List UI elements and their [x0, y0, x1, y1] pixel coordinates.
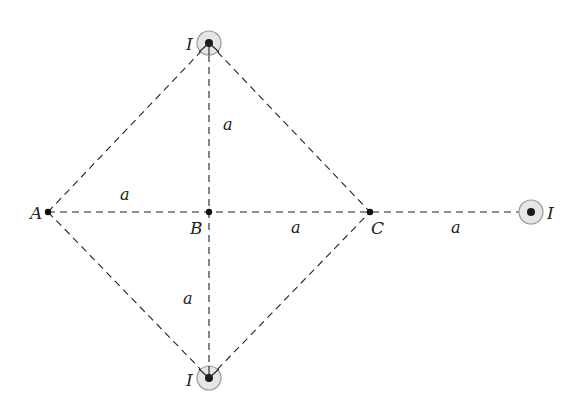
wire-bottom-label: I [185, 370, 193, 390]
distance-label-bottom-b: a [183, 289, 193, 308]
distance-label-c-right: a [451, 218, 461, 237]
point-dot-icon [45, 209, 51, 215]
distance-label-top-b: a [223, 115, 233, 134]
wire-right-label: I [546, 203, 554, 223]
wire-right: I [519, 200, 554, 224]
wire-top-label: I [185, 34, 193, 54]
line-top-c [209, 43, 370, 212]
distance-label-b-c: a [291, 218, 301, 237]
distance-label-a-b: a [120, 185, 130, 204]
wire-top: I [185, 31, 221, 55]
point-dot-icon [206, 209, 212, 215]
point-c: C [367, 209, 384, 238]
current-out-dot-icon [527, 208, 535, 216]
current-diagram: I I I A B C a a a a a [0, 0, 580, 408]
point-c-label: C [371, 218, 384, 238]
dashed-lines [48, 43, 531, 378]
line-bottom-c [209, 212, 370, 378]
point-b-label: B [189, 218, 203, 238]
wire-bottom: I [185, 366, 221, 390]
point-a-label: A [28, 203, 42, 223]
point-a: A [28, 203, 51, 223]
point-dot-icon [367, 209, 373, 215]
